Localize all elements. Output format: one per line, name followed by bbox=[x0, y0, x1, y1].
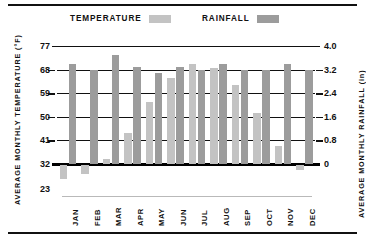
right-tick bbox=[316, 70, 323, 72]
bar-rainfall bbox=[155, 73, 163, 165]
legend-label-rainfall: RAINFALL bbox=[202, 14, 250, 23]
bar-rainfall bbox=[133, 67, 141, 164]
right-tick-label: 2.4 bbox=[324, 88, 354, 98]
bar-temperature bbox=[146, 102, 154, 164]
bar-series-group bbox=[57, 46, 315, 164]
left-tick-label: 68 bbox=[22, 65, 50, 75]
right-tick bbox=[316, 93, 323, 95]
right-tick-label: 4.0 bbox=[324, 41, 354, 51]
bottom-border bbox=[8, 232, 357, 234]
bar-rainfall bbox=[90, 70, 98, 164]
bar-temperature bbox=[210, 68, 218, 164]
month-label: JUN bbox=[179, 209, 188, 226]
left-tick-label: 59 bbox=[22, 88, 50, 98]
bar-rainfall bbox=[305, 70, 313, 164]
legend-swatch-rainfall bbox=[257, 15, 279, 23]
plot-area bbox=[57, 46, 315, 164]
bar-rainfall bbox=[262, 70, 270, 164]
bar-rainfall bbox=[219, 64, 227, 164]
legend-label-temperature: TEMPERATURE bbox=[70, 14, 142, 23]
right-tick-label: 3.2 bbox=[324, 65, 354, 75]
right-tick-label: 1.6 bbox=[324, 112, 354, 122]
bar-temperature bbox=[60, 165, 68, 179]
x-axis-rule bbox=[62, 196, 312, 197]
bar-temperature bbox=[189, 64, 197, 164]
right-tick-label: 0.8 bbox=[324, 135, 354, 145]
right-tick bbox=[316, 140, 323, 142]
bar-rainfall bbox=[198, 70, 206, 164]
month-label: MAR bbox=[114, 207, 123, 226]
month-label: APR bbox=[136, 208, 145, 226]
legend-item-temperature: TEMPERATURE bbox=[70, 14, 171, 23]
bar-rainfall bbox=[176, 67, 184, 164]
left-tick-label: 23 bbox=[22, 184, 50, 194]
right-tick-label: 0 bbox=[324, 159, 354, 169]
left-tick-label: 32 bbox=[22, 159, 50, 169]
top-border bbox=[8, 4, 357, 6]
bar-temperature bbox=[275, 146, 283, 164]
month-label: SEP bbox=[243, 209, 252, 226]
bar-rainfall bbox=[284, 64, 292, 164]
bar-temperature bbox=[232, 85, 240, 164]
bar-temperature bbox=[81, 165, 89, 174]
month-label: AUG bbox=[222, 207, 231, 226]
legend-item-rainfall: RAINFALL bbox=[202, 14, 279, 23]
month-label: OCT bbox=[265, 208, 274, 226]
month-label: DEC bbox=[308, 208, 317, 226]
left-tick-label: 77 bbox=[22, 41, 50, 51]
bar-rainfall bbox=[112, 55, 120, 164]
bar-rainfall bbox=[69, 64, 77, 164]
right-axis-title: AVERAGE MONTHLY RAINFALL (in) bbox=[357, 70, 366, 218]
month-label: FEB bbox=[93, 209, 102, 226]
month-label: JAN bbox=[71, 209, 80, 226]
bar-temperature bbox=[167, 78, 175, 165]
bar-temperature bbox=[124, 133, 132, 165]
bar-temperature bbox=[253, 113, 261, 164]
month-label: MAY bbox=[157, 208, 166, 226]
left-tick-label: 50 bbox=[22, 112, 50, 122]
legend-swatch-temperature bbox=[149, 15, 171, 23]
left-tick-label: 41 bbox=[22, 135, 50, 145]
bar-temperature bbox=[103, 159, 111, 164]
bar-temperature bbox=[296, 165, 304, 170]
chart-legend: TEMPERATURE RAINFALL bbox=[60, 14, 310, 26]
right-tick bbox=[316, 117, 323, 119]
left-axis-title: AVERAGE MONTHLY TEMPERATURE (°F) bbox=[13, 34, 22, 205]
month-label: JUL bbox=[200, 210, 209, 226]
month-label: NOV bbox=[286, 208, 295, 226]
bar-rainfall bbox=[241, 70, 249, 164]
